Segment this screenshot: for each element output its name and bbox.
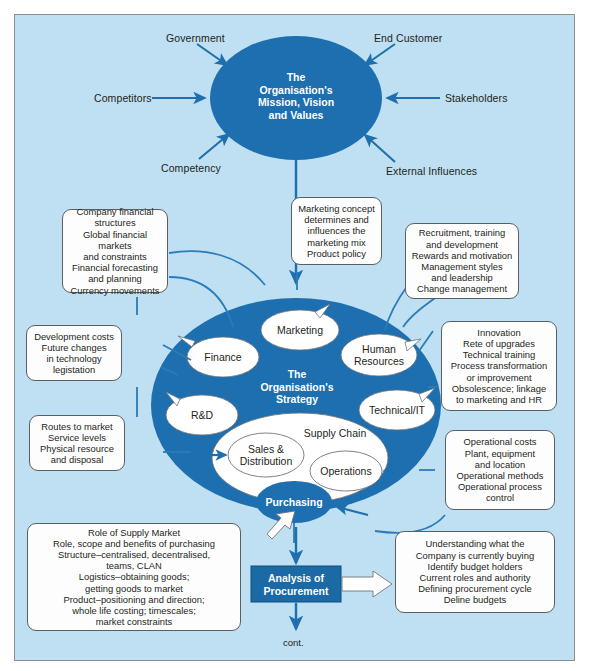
operations-callout-line-6: control — [451, 492, 549, 503]
arrow-end-customer — [365, 44, 395, 65]
arrow-external-influences — [365, 135, 395, 162]
rd-callout-line-4: legistation — [32, 364, 116, 375]
technical-callout-text: Innovation Rete of upgrades Technical tr… — [447, 327, 551, 405]
bubble-label-human-resources: Human Resources — [345, 343, 413, 367]
block-arrow-analysis-to-callout — [342, 571, 392, 597]
hr-callout-line-1: Recruitment, training — [411, 227, 513, 238]
finance-callout-line-3: Global financial markets — [68, 229, 162, 251]
marketing-callout-text: Marketing concept determines and influen… — [297, 203, 376, 259]
strategy-line-2: Organisation's — [241, 381, 353, 394]
connector-finance — [169, 251, 265, 285]
bubble-label-technical-it: Technical/IT — [359, 404, 435, 416]
finance-callout-line-7: Currency movements — [68, 285, 162, 296]
rd-callout-line-3: in technology — [32, 353, 116, 364]
hr-callout-text: Recruitment, training and development Re… — [411, 227, 513, 294]
strategy-line-1: The — [241, 368, 353, 381]
procurement-analysis-line-3: Identify budget holders — [401, 561, 549, 572]
technical-callout-line-1: Innovation — [447, 327, 551, 338]
operations-callout-line-2: Plant, equipment — [451, 448, 549, 459]
purchasing-callout-line-4: teams, CLAN — [33, 560, 235, 571]
hr-callout-line-5: and leadership — [411, 272, 513, 283]
purchasing-callout-line-1: Role of Supply Market — [33, 527, 235, 538]
distribution-callout: Routes to market Service levels Physical… — [29, 415, 125, 471]
hr-callout: Recruitment, training and development Re… — [405, 223, 519, 299]
marketing-callout-line-1: Marketing concept — [297, 203, 376, 214]
mission-line-4: and Values — [221, 109, 371, 122]
diagram-stage: Government End Customer Competitors Stak… — [0, 0, 589, 671]
operations-callout: Operational costs Plant, equipment and l… — [445, 430, 555, 510]
supply-chain-label: Supply Chain — [293, 427, 377, 439]
finance-callout-line-6: and planning — [68, 273, 162, 284]
technical-callout-line-3: Technical training — [447, 349, 551, 360]
arrow-government — [197, 44, 227, 65]
purchasing-callout-line-5: Logistics–obtaining goods; — [33, 571, 235, 582]
analysis-of-procurement-label: Analysis of Procurement — [251, 572, 341, 597]
hr-callout-line-4: Management styles — [411, 261, 513, 272]
purchasing-callout: Role of Supply Market Role, scope and be… — [27, 523, 241, 631]
finance-callout-line-2: structures — [68, 217, 162, 228]
technical-callout-line-7: to marketing and HR — [447, 394, 551, 405]
procurement-analysis-line-1: Understanding what the — [401, 538, 549, 549]
mission-line-1: The — [221, 71, 371, 84]
marketing-callout-line-3: influences the — [297, 225, 376, 236]
purchasing-callout-line-3: Structure–centralised, decentralised, — [33, 549, 235, 560]
purchasing-callout-line-2: Role, scope and benefits of purchasing — [33, 538, 235, 549]
procurement-analysis-callout: Understanding what the Company is curren… — [395, 531, 555, 613]
input-label-end-customer: End Customer — [374, 32, 442, 44]
finance-callout-line-4: and constraints — [68, 251, 162, 262]
finance-callout-line-1: Company financial — [68, 206, 162, 217]
marketing-callout: Marketing concept determines and influen… — [291, 197, 382, 265]
input-label-stakeholders: Stakeholders — [445, 92, 508, 104]
bubble-label-marketing: Marketing — [260, 324, 340, 336]
purchasing-callout-line-9: market constraints — [33, 616, 235, 627]
procurement-analysis-callout-text: Understanding what the Company is curren… — [401, 538, 549, 605]
operations-callout-line-4: Operational methods — [451, 470, 549, 481]
purchasing-callout-text: Role of Supply Market Role, scope and be… — [33, 527, 235, 628]
rd-callout-line-2: Future changes — [32, 342, 116, 353]
rd-callout-text: Development costs Future changes in tech… — [32, 331, 116, 376]
technical-callout-line-4: Process transformation — [447, 360, 551, 371]
distribution-callout-line-2: Service levels — [35, 432, 119, 443]
procurement-analysis-line-4: Current roles and authority — [401, 572, 549, 583]
finance-callout-text: Company financial structures Global fina… — [68, 206, 162, 296]
purchasing-callout-line-6: getting goods to market — [33, 583, 235, 594]
bubble-label-rd: R&D — [170, 409, 234, 421]
strategy-line-3: Strategy — [241, 393, 353, 406]
supply-chain-label-operations: Operations — [311, 465, 381, 477]
technical-callout: Innovation Rete of upgrades Technical tr… — [441, 321, 557, 411]
operations-callout-line-5: Operational process — [451, 481, 549, 492]
mission-vision-title: The Organisation's Mission, Vision and V… — [221, 71, 371, 121]
purchasing-callout-line-8: whole life costing; timescales; — [33, 605, 235, 616]
marketing-callout-line-2: determines and — [297, 214, 376, 225]
distribution-callout-line-1: Routes to market — [35, 421, 119, 432]
marketing-callout-line-4: marketing mix — [297, 237, 376, 248]
analysis-line-1: Analysis of — [251, 572, 341, 585]
operations-callout-text: Operational costs Plant, equipment and l… — [451, 436, 549, 503]
technical-callout-line-2: Rete of upgrades — [447, 338, 551, 349]
mission-line-3: Mission, Vision — [221, 96, 371, 109]
operations-callout-line-1: Operational costs — [451, 436, 549, 447]
hr-callout-line-3: Rewards and motivation — [411, 250, 513, 261]
input-label-competency: Competency — [161, 162, 221, 174]
input-label-government: Government — [166, 32, 225, 44]
hr-callout-line-2: and development — [411, 239, 513, 250]
bubble-label-finance: Finance — [187, 351, 259, 363]
rd-callout-line-1: Development costs — [32, 331, 116, 342]
input-label-external-influences: External Influences — [386, 165, 477, 177]
purchasing-callout-line-7: Product–positioning and direction; — [33, 594, 235, 605]
finance-callout: Company financial structures Global fina… — [62, 209, 168, 293]
strategy-title: The Organisation's Strategy — [241, 368, 353, 406]
hr-callout-line-6: Change management — [411, 283, 513, 294]
diagram-frame: Government End Customer Competitors Stak… — [14, 14, 575, 661]
arrow-into-purchasing-right — [337, 507, 368, 515]
distribution-callout-line-3: Physical resource — [35, 443, 119, 454]
technical-callout-line-5: or improvement — [447, 372, 551, 383]
mission-line-2: Organisation's — [221, 84, 371, 97]
analysis-line-2: Procurement — [251, 585, 341, 598]
procurement-analysis-line-2: Company is currently buying — [401, 550, 549, 561]
procurement-analysis-line-6: Deline budgets — [401, 594, 549, 605]
supply-chain-label-sales-distribution: Sales & Distribution — [228, 443, 304, 467]
connector-technical — [419, 331, 433, 351]
rd-callout: Development costs Future changes in tech… — [26, 325, 122, 381]
finance-callout-line-5: Financial forecasting — [68, 262, 162, 273]
